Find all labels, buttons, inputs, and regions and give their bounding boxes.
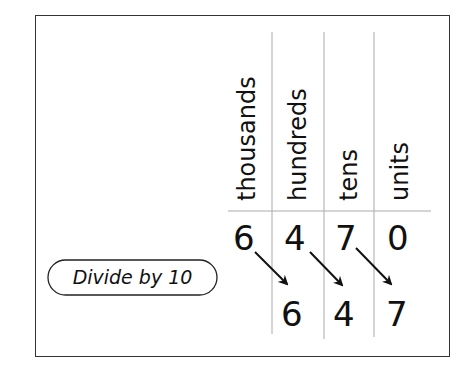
place-value-diagram: thousands hundreds tens units 6 4 7 0 6 … [0, 0, 476, 377]
column-header-thousands: thousands [233, 76, 261, 201]
result-digit-tens: 4 [333, 294, 355, 334]
result-digit-units: 7 [386, 294, 408, 334]
column-header-hundreds: hundreds [284, 88, 312, 201]
column-header-units: units [386, 142, 414, 201]
digit-thousands: 6 [233, 218, 255, 258]
operation-label: Divide by 10 [48, 260, 217, 295]
column-header-tens: tens [335, 149, 363, 201]
shift-arrows [255, 248, 391, 285]
operation-text: Divide by 10 [73, 266, 193, 288]
result-digit-hundreds: 6 [281, 294, 303, 334]
digit-hundreds: 4 [284, 218, 306, 258]
digit-tens: 7 [335, 218, 357, 258]
digit-units: 0 [387, 218, 409, 258]
arrow-icon [255, 252, 287, 284]
